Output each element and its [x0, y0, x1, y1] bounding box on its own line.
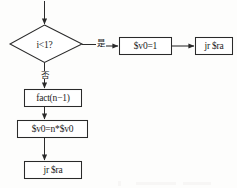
node-multiply-label: $v0=n*$v0 [17, 120, 88, 138]
node-condition-label: i<1? [10, 36, 79, 53]
flowchart-canvas: i<1? $v0=1 jr $ra fact(n−1) $v0=n*$v0 jr… [0, 0, 237, 188]
scan-artifact [118, 181, 121, 186]
node-set-v0-one-label: $v0=1 [119, 37, 172, 55]
node-return-bottom-label: jr $ra [24, 161, 82, 179]
scan-artifact [183, 182, 211, 185]
edge-label-no: 否 [40, 71, 50, 80]
scan-artifact [136, 182, 176, 185]
node-call-fact-label: fact(n−1) [24, 89, 82, 107]
edge-label-yes: 是 [96, 39, 106, 48]
node-return-top-label: jr $ra [195, 37, 233, 55]
